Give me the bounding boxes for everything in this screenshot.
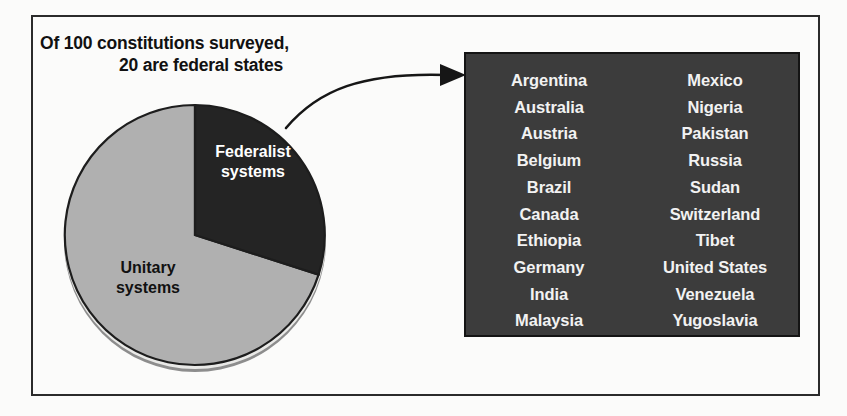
pie-label-federalist: Federalist systems [193, 142, 313, 181]
list-item: Pakistan [681, 120, 748, 147]
caption-line-1: Of 100 constitutions surveyed, [36, 32, 366, 54]
list-item: Switzerland [670, 201, 761, 228]
pie-label-federalist-line-2: systems [221, 163, 285, 180]
country-column-left: Argentina Australia Austria Belgium Braz… [466, 67, 632, 334]
list-item: Brazil [527, 174, 571, 201]
federal-states-panel: Argentina Australia Austria Belgium Braz… [464, 52, 800, 337]
figure-caption: Of 100 constitutions surveyed, 20 are fe… [36, 32, 366, 77]
list-item: India [530, 281, 568, 308]
list-item: Tibet [696, 227, 735, 254]
pie-chart [55, 95, 335, 375]
list-item: Russia [688, 147, 742, 174]
list-item: Sudan [690, 174, 740, 201]
list-item: Canada [519, 201, 578, 228]
pie-label-unitary: Unitary systems [88, 258, 208, 297]
pie-label-federalist-line-1: Federalist [215, 143, 291, 160]
list-item: Nigeria [687, 94, 742, 121]
list-item: Ethiopia [517, 227, 581, 254]
list-item: Malaysia [515, 307, 583, 334]
list-item: Austria [521, 120, 577, 147]
list-item: United States [663, 254, 767, 281]
list-item: Argentina [511, 67, 587, 94]
list-item: Mexico [687, 67, 742, 94]
list-item: Yugoslavia [672, 307, 757, 334]
list-item: Venezuela [676, 281, 755, 308]
pie-label-unitary-line-2: systems [116, 279, 180, 296]
pie-label-unitary-line-1: Unitary [120, 259, 175, 276]
list-item: Belgium [517, 147, 581, 174]
list-item: Australia [514, 94, 584, 121]
caption-line-2: 20 are federal states [36, 54, 366, 76]
country-column-right: Mexico Nigeria Pakistan Russia Sudan Swi… [632, 67, 798, 334]
list-item: Germany [514, 254, 585, 281]
